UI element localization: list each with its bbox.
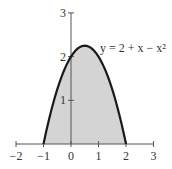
equation-label: y = 2 + x − x² (100, 41, 166, 55)
x-tick-label: −1 (37, 149, 50, 163)
y-tick-label: 3 (60, 6, 66, 20)
parabola-area-plot: y = 2 + x − x² −2−10123 123 (0, 0, 172, 169)
x-tick-labels: −2−10123 (10, 149, 157, 163)
x-tick-label: −2 (10, 149, 23, 163)
y-tick-label: 2 (60, 50, 66, 64)
x-tick-label: 3 (151, 149, 157, 163)
x-tick-label: 2 (123, 149, 129, 163)
x-tick-label: 1 (96, 149, 102, 163)
chart-container: y = 2 + x − x² −2−10123 123 (0, 0, 172, 169)
x-tick-label: 0 (68, 149, 74, 163)
y-tick-label: 1 (60, 93, 66, 107)
